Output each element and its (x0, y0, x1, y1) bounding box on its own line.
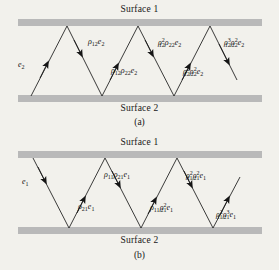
panel-a-ray-paths (0, 0, 279, 135)
panel-b-lower-label-1: ρ21e1 (78, 202, 94, 212)
panel-a-upper-label-2: ρ212ρ22e2 (158, 37, 181, 48)
panel-b: Surface 1 Surface 2 e1 (0, 135, 279, 270)
panel-b-upper-label-1: ρ11ρ21e1 (104, 170, 130, 180)
panel-b-lower-label-3: ρ211ρ321e1 (216, 209, 236, 220)
panel-a-lower-label-2: ρ212ρ222e2 (183, 66, 203, 77)
panel-a-upper-label-1: ρ12e2 (88, 37, 104, 47)
panel-a-incident-label: e2 (18, 60, 25, 70)
panel-b-caption: (b) (0, 250, 279, 260)
panel-a-upper-label-3: ρ312ρ222e2 (224, 37, 244, 48)
panel-a-lower-label-1: ρ12ρ22e2 (111, 66, 137, 76)
panel-b-incident-label: e1 (22, 177, 29, 187)
panel-a: Surface 1 Surface 2 (0, 0, 279, 135)
panel-b-upper-label-2: ρ211ρ221e1 (186, 170, 206, 181)
panel-a-caption: (a) (0, 117, 279, 127)
panel-b-lower-label-2: ρ11ρ221e1 (150, 202, 173, 213)
